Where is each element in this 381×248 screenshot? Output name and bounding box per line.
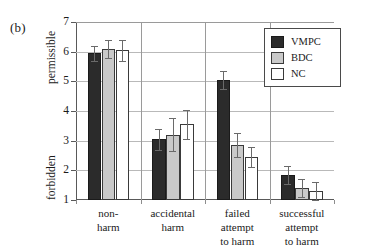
error-bar <box>237 133 238 157</box>
y-axis-top-label: permissible <box>45 31 57 84</box>
bar-vmpc-3 <box>217 80 231 200</box>
x-category-line: failed <box>205 206 270 220</box>
error-bar-cap-upper <box>298 179 305 180</box>
x-category-label-1: non-harm <box>76 206 141 234</box>
legend-item-bdc[interactable]: BDC <box>271 50 340 66</box>
error-bar-cap-upper <box>105 40 112 41</box>
legend-label: NC <box>291 69 306 80</box>
error-bar-cap-upper <box>234 133 241 134</box>
legend-swatch-bdc <box>271 52 284 64</box>
error-bar-cap-upper <box>220 71 227 72</box>
bar-vmpc-1 <box>88 53 102 200</box>
x-category-line: to harm <box>270 234 335 248</box>
y-tick-label: 1 <box>63 194 69 206</box>
x-tick <box>270 200 271 204</box>
error-bar-cap-lower <box>119 61 126 62</box>
error-bar-cap-upper <box>169 118 176 119</box>
error-bar-cap-upper <box>155 129 162 130</box>
x-tick <box>205 200 206 204</box>
legend: VMPCBDCNC <box>264 28 341 87</box>
y-tick-label: 6 <box>63 46 69 58</box>
error-bar <box>316 182 317 200</box>
x-tick <box>334 200 335 204</box>
error-bar-cap-lower <box>91 61 98 62</box>
error-bar-cap-upper <box>183 110 190 111</box>
y-tick-label: 7 <box>63 16 69 28</box>
error-bar <box>173 118 174 151</box>
bar-nc-1 <box>116 50 130 200</box>
error-bar <box>108 40 109 58</box>
error-bar <box>122 40 123 61</box>
legend-swatch-nc <box>271 68 284 80</box>
error-bar-cap-upper <box>248 147 255 148</box>
x-category-label-4: successfulattemptto harm <box>270 206 335 248</box>
error-bar-cap-lower <box>248 167 255 168</box>
panel-letter: (b) <box>10 20 26 36</box>
error-bar-cap-lower <box>298 197 305 198</box>
error-bar <box>159 129 160 150</box>
error-bar-cap-upper <box>312 182 319 183</box>
x-category-line: non- <box>76 206 141 220</box>
bar-bdc-1 <box>102 49 116 200</box>
y-tick-label: 2 <box>63 164 69 176</box>
x-category-line: successful <box>270 206 335 220</box>
legend-item-vmpc[interactable]: VMPC <box>271 34 340 50</box>
x-category-label-3: failedattemptto harm <box>205 206 270 248</box>
error-bar <box>302 179 303 197</box>
x-category-line: harm <box>141 220 206 234</box>
x-category-line: to harm <box>205 234 270 248</box>
error-bar-cap-lower <box>183 139 190 140</box>
x-tick <box>76 200 77 204</box>
error-bar-cap-upper <box>284 166 291 167</box>
y-tick-label: 5 <box>63 75 69 87</box>
error-bar-cap-lower <box>155 150 162 151</box>
y-tick-label: 4 <box>63 105 69 117</box>
error-bar-cap-lower <box>105 58 112 59</box>
x-category-line: accidental <box>141 206 206 220</box>
bar-group <box>76 22 141 200</box>
error-bar <box>251 147 252 168</box>
error-bar-cap-lower <box>312 200 319 201</box>
legend-item-nc[interactable]: NC <box>271 66 340 82</box>
figure-panel-b: (b) permissible forbidden 7654321 VMPCBD… <box>0 0 381 248</box>
error-bar <box>187 110 188 140</box>
error-bar <box>288 166 289 184</box>
bar-group <box>141 22 206 200</box>
error-bar-cap-lower <box>284 184 291 185</box>
bar-group <box>205 22 270 200</box>
x-category-line: attempt <box>270 220 335 234</box>
x-category-line: attempt <box>205 220 270 234</box>
error-bar-cap-upper <box>119 40 126 41</box>
x-category-line: harm <box>76 220 141 234</box>
x-tick <box>141 200 142 204</box>
error-bar-cap-lower <box>234 157 241 158</box>
error-bar-cap-upper <box>91 46 98 47</box>
y-tick-label: 3 <box>63 135 69 147</box>
legend-swatch-vmpc <box>271 36 284 48</box>
legend-label: VMPC <box>291 37 321 48</box>
error-bar <box>223 71 224 89</box>
error-bar <box>94 46 95 61</box>
error-bar-cap-lower <box>220 89 227 90</box>
legend-label: BDC <box>291 53 313 64</box>
y-axis-bottom-label: forbidden <box>45 155 57 200</box>
error-bar-cap-lower <box>169 151 176 152</box>
x-category-label-2: accidentalharm <box>141 206 206 234</box>
